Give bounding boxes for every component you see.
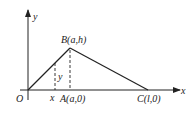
x-marker-label: x — [49, 92, 55, 103]
segment-BC — [70, 48, 148, 90]
point-A-label: A(a,0) — [59, 93, 86, 105]
y-segment-label: y — [57, 71, 63, 82]
diagram-canvas: y x O B(a,h) A(a,0) C(l,0) x y — [0, 0, 190, 119]
triangle-diagram: y x O B(a,h) A(a,0) C(l,0) x y — [0, 0, 190, 119]
x-axis-label: x — [180, 85, 186, 96]
origin-label: O — [16, 93, 23, 104]
y-axis-label: y — [32, 11, 38, 22]
point-C-label: C(l,0) — [137, 93, 161, 105]
segment-OB — [28, 48, 70, 90]
point-B-label: B(a,h) — [61, 34, 87, 46]
